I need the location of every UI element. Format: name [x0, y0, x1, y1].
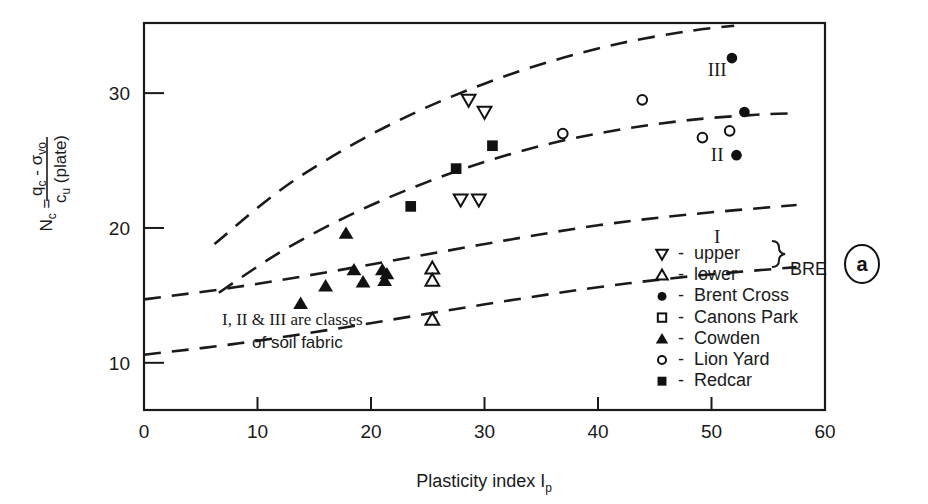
y-axis-title: Nc = qc - σvo cu (plate)	[27, 135, 73, 232]
y-label-nc: N	[37, 219, 56, 231]
svg-text:qc - σvo: qc - σvo	[27, 142, 49, 196]
y-den-cu-sub: u	[59, 188, 73, 195]
y-num-qc: q	[27, 186, 46, 195]
x-axis-title-main: Plasticity index I	[416, 471, 545, 491]
y-den-plate: (plate)	[51, 135, 70, 188]
x-axis-title: Plasticity index Ip	[416, 471, 552, 495]
y-num-sigma: σ	[27, 154, 46, 165]
annotation-line-1: I, II & III are classes	[222, 310, 363, 329]
chart-static-layer: Nc = qc - σvo cu (plate) Plasticity inde…	[0, 0, 928, 504]
x-axis-title-sub: p	[545, 481, 552, 495]
panel-label: a	[845, 245, 879, 283]
y-num-minus: -	[27, 165, 46, 180]
panel-label-text: a	[856, 253, 868, 275]
annotation-line-2: of soil fabric	[252, 333, 343, 352]
svg-text:cu (plate): cu (plate)	[51, 135, 73, 203]
figure-panel-a: 0102030405060102030IIIIII-upper-lower-Br…	[0, 0, 928, 504]
